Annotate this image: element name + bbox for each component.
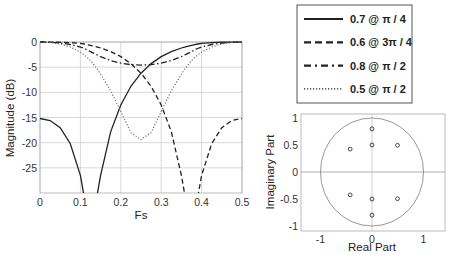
- legend-label: 0.7 @ π / 4: [350, 13, 407, 25]
- y-tick-label: -5: [28, 61, 37, 73]
- magnitude-x-ticks: 00.10.20.30.40.5: [37, 196, 249, 208]
- pz-y-tick-label: 0.5: [283, 139, 298, 151]
- pz-x-tick-label: -1: [316, 233, 325, 245]
- y-tick-label: -25: [22, 162, 37, 174]
- figure: 00.10.20.30.40.5 0-5-10-15-20-25 Fs Magn…: [0, 0, 451, 256]
- y-tick-label: -15: [22, 112, 37, 124]
- y-tick-label: -20: [22, 137, 37, 149]
- zero-marker: [396, 197, 400, 201]
- pz-y-tick-label: -1: [289, 220, 298, 232]
- pole-zero-y-label: Imaginary Part: [264, 134, 276, 210]
- pole-zero-x-label: Real Part: [348, 241, 397, 253]
- pz-y-tick-label: 0: [292, 166, 298, 178]
- pole-zero-plot: -10110.50-0.5-1 Real Part Imaginary Part: [264, 112, 445, 253]
- magnitude-y-ticks: 0-5-10-15-20-25: [22, 36, 37, 174]
- pz-y-tick-label: -0.5: [280, 193, 298, 205]
- curve-dashed: [40, 42, 242, 213]
- legend-label: 0.6 @ 3π / 4: [350, 36, 413, 48]
- y-tick-label: -10: [22, 86, 37, 98]
- zero-marker: [348, 147, 352, 151]
- magnitude-curves: [40, 42, 242, 213]
- legend: 0.7 @ π / 40.6 @ 3π / 40.8 @ π / 20.5 @ …: [297, 5, 413, 103]
- magnitude-plot: 00.10.20.30.40.5 0-5-10-15-20-25 Fs Magn…: [4, 36, 249, 221]
- magnitude-y-label: Magnitude (dB): [4, 79, 16, 158]
- curve-solid: [40, 42, 242, 213]
- x-tick-label: 0.1: [73, 196, 88, 208]
- x-tick-label: 0.3: [154, 196, 169, 208]
- x-tick-label: 0: [37, 196, 43, 208]
- legend-label: 0.8 @ π / 2: [350, 60, 406, 72]
- zero-marker: [348, 193, 352, 197]
- curve-dashdot: [40, 42, 242, 65]
- x-tick-label: 0.2: [113, 196, 128, 208]
- magnitude-x-label: Fs: [135, 209, 148, 221]
- zero-marker: [396, 143, 400, 147]
- pz-x-tick-label: 1: [421, 233, 427, 245]
- curve-dotted: [40, 42, 242, 140]
- pz-y-tick-label: 1: [292, 112, 298, 124]
- x-tick-label: 0.5: [235, 196, 250, 208]
- y-tick-label: 0: [31, 36, 37, 48]
- x-tick-label: 0.4: [194, 196, 209, 208]
- legend-label: 0.5 @ π / 2: [350, 83, 406, 95]
